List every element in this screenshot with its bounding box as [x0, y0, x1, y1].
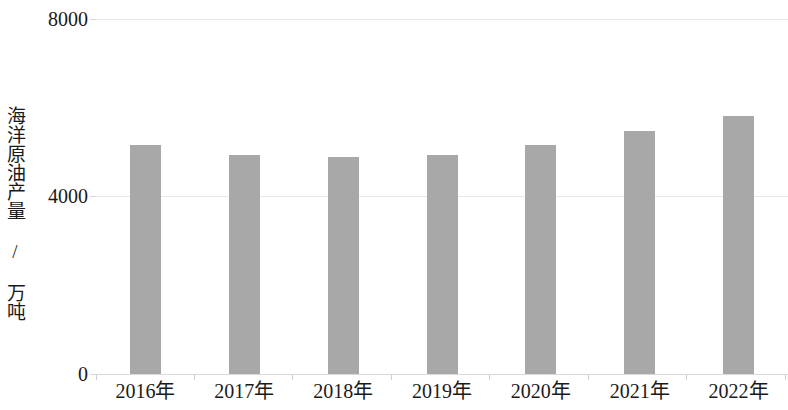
x-tick-label-2018: 2018年 — [294, 378, 393, 404]
x-tick-label-2016: 2016年 — [96, 378, 195, 404]
bar-2019 — [427, 155, 458, 374]
y-tick-mark-8000 — [90, 19, 96, 20]
bar-2017 — [229, 155, 260, 374]
y-tick-mark-4000 — [90, 196, 96, 197]
x-tick-label-2020: 2020年 — [491, 378, 590, 404]
y-tick-label-4000: 4000 — [20, 186, 88, 206]
bar-2018 — [328, 157, 359, 374]
bar-2020 — [525, 145, 556, 374]
x-tick-label-2017: 2017年 — [195, 378, 294, 404]
y-axis-tick-labels: 8000 4000 0 — [20, 0, 88, 410]
axis-baseline-0 — [96, 374, 788, 375]
plot-area — [96, 10, 788, 375]
x-tick-label-2021: 2021年 — [590, 378, 689, 404]
x-axis-tick-labels: 2016年 2017年 2018年 2019年 2020年 2021年 2022… — [96, 378, 788, 410]
bar-chart-figure: 海洋原油产量 / 万吨 8000 4000 0 2016年 2017年 2018… — [0, 0, 788, 410]
gridline-8000 — [96, 19, 788, 20]
x-tick-label-2019: 2019年 — [393, 378, 492, 404]
y-tick-label-8000: 8000 — [20, 9, 88, 29]
y-tick-label-0: 0 — [20, 364, 88, 384]
x-tick-label-2022: 2022年 — [689, 378, 788, 404]
bar-2021 — [624, 131, 655, 374]
bar-2016 — [130, 145, 161, 374]
bar-2022 — [723, 116, 754, 374]
